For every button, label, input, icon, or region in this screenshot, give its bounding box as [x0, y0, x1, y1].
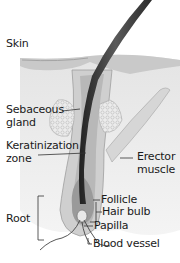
papilla	[77, 210, 87, 222]
label-blood-vessel: Blood vessel	[93, 238, 160, 250]
label-skin: Skin	[6, 38, 29, 50]
label-papilla: Papilla	[94, 220, 128, 232]
label-root: Root	[6, 213, 30, 225]
label-erector-muscle-line2: muscle	[137, 164, 175, 176]
label-erector-muscle: Erector	[137, 151, 175, 163]
label-sebaceous-gland: Sebaceous	[6, 104, 64, 116]
label-sebaceous-gland-line2: gland	[6, 117, 36, 129]
label-hair-bulb: Hair bulb	[102, 206, 150, 218]
label-keratinization-zone: Keratinization	[6, 140, 79, 152]
label-keratinization-zone-line2: zone	[6, 153, 31, 165]
